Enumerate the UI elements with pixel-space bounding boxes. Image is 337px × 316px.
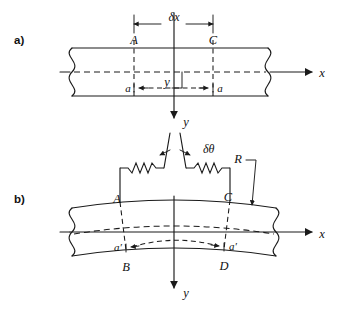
panel-label-a: a) <box>14 34 24 46</box>
delta-theta-indicator <box>160 150 190 155</box>
fiber-label-a-right: a <box>217 82 223 94</box>
point-label-b-D: D <box>218 259 228 273</box>
depth-label-y: y <box>162 75 170 89</box>
fiber-label-a-left: a <box>125 82 131 94</box>
axis-label-y-b: y <box>181 286 189 300</box>
axis-label-x-b: x <box>318 227 325 241</box>
panel-b-group <box>60 133 312 288</box>
fiber-label-b-right: a′ <box>229 240 238 252</box>
axis-label-y-a: y <box>181 115 189 129</box>
point-label-b-C: C <box>224 190 233 204</box>
delta-x-label: δx <box>169 10 181 24</box>
panel-a-group <box>60 13 312 118</box>
figure-canvas: a) b) δx A C a a y x y δθ R A C B D a′ a… <box>0 0 337 316</box>
beam-bending-figure: a) b) δx A C a a y x y δθ R A C B D a′ a… <box>0 0 337 316</box>
fiber-label-b-left: a′ <box>114 241 123 253</box>
point-label-a-right: C <box>209 33 218 47</box>
point-label-a-left: A <box>129 33 138 47</box>
point-label-b-B: B <box>122 260 130 274</box>
radius-leader <box>246 160 256 205</box>
panel-label-b: b) <box>14 193 25 205</box>
axis-label-x-a: x <box>318 66 325 80</box>
radius-label-R: R <box>233 152 242 166</box>
fiber-line-b <box>126 240 224 252</box>
point-label-b-A: A <box>112 192 121 206</box>
delta-theta-label: δθ <box>203 142 215 156</box>
